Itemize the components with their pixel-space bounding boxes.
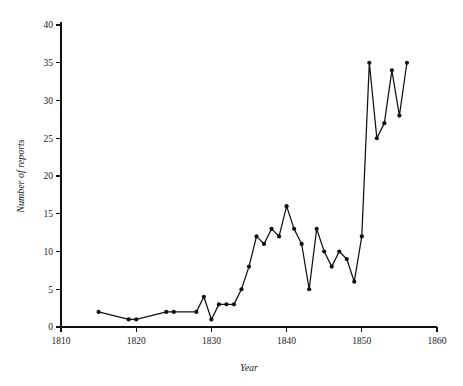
y-tick-label: 10: [44, 247, 54, 257]
data-point: [134, 317, 138, 321]
data-point: [397, 114, 401, 118]
data-point: [352, 280, 356, 284]
data-point: [330, 265, 334, 269]
data-point: [292, 227, 296, 231]
series-polyline: [99, 63, 407, 320]
data-point: [375, 136, 379, 140]
data-point: [367, 61, 371, 65]
y-tick-label: 5: [48, 285, 53, 295]
y-tick-label: 0: [48, 322, 53, 332]
y-axis: 0510152025303540: [44, 20, 62, 332]
data-point: [97, 310, 101, 314]
data-point: [194, 310, 198, 314]
y-tick-label: 20: [44, 171, 54, 181]
data-point: [209, 317, 213, 321]
data-point: [405, 61, 409, 65]
x-tick-label: 1820: [127, 336, 146, 346]
data-point: [307, 287, 311, 291]
data-point: [382, 121, 386, 125]
data-point: [247, 265, 251, 269]
x-axis: 181018201830184018501860: [52, 327, 447, 346]
data-point: [127, 317, 131, 321]
x-tick-label: 1810: [52, 336, 71, 346]
data-series: [97, 61, 410, 322]
data-point: [345, 257, 349, 261]
y-tick-label: 15: [44, 209, 54, 219]
data-point: [217, 302, 221, 306]
data-point: [390, 68, 394, 72]
x-axis-title: Year: [240, 362, 258, 373]
data-point: [254, 234, 258, 238]
chart-figure: 0510152025303540 18101820183018401850186…: [0, 0, 463, 386]
x-tick-label: 1840: [277, 336, 296, 346]
y-tick-label: 40: [44, 20, 54, 30]
data-point: [164, 310, 168, 314]
data-point: [232, 302, 236, 306]
data-point: [337, 249, 341, 253]
data-point: [322, 249, 326, 253]
data-point: [269, 227, 273, 231]
data-point: [277, 234, 281, 238]
data-point: [202, 295, 206, 299]
data-point: [172, 310, 176, 314]
x-tick-label: 1850: [352, 336, 371, 346]
data-point: [360, 234, 364, 238]
data-point: [224, 302, 228, 306]
y-tick-label: 35: [44, 58, 54, 68]
data-point: [300, 242, 304, 246]
line-chart: 0510152025303540 18101820183018401850186…: [0, 0, 463, 386]
data-point: [315, 227, 319, 231]
y-tick-label: 30: [44, 96, 54, 106]
x-tick-label: 1860: [428, 336, 447, 346]
data-point: [285, 204, 289, 208]
data-point: [262, 242, 266, 246]
y-tick-label: 25: [44, 134, 54, 144]
x-tick-label: 1830: [202, 336, 221, 346]
y-axis-title: Number of reports: [15, 139, 26, 214]
data-point: [239, 287, 243, 291]
